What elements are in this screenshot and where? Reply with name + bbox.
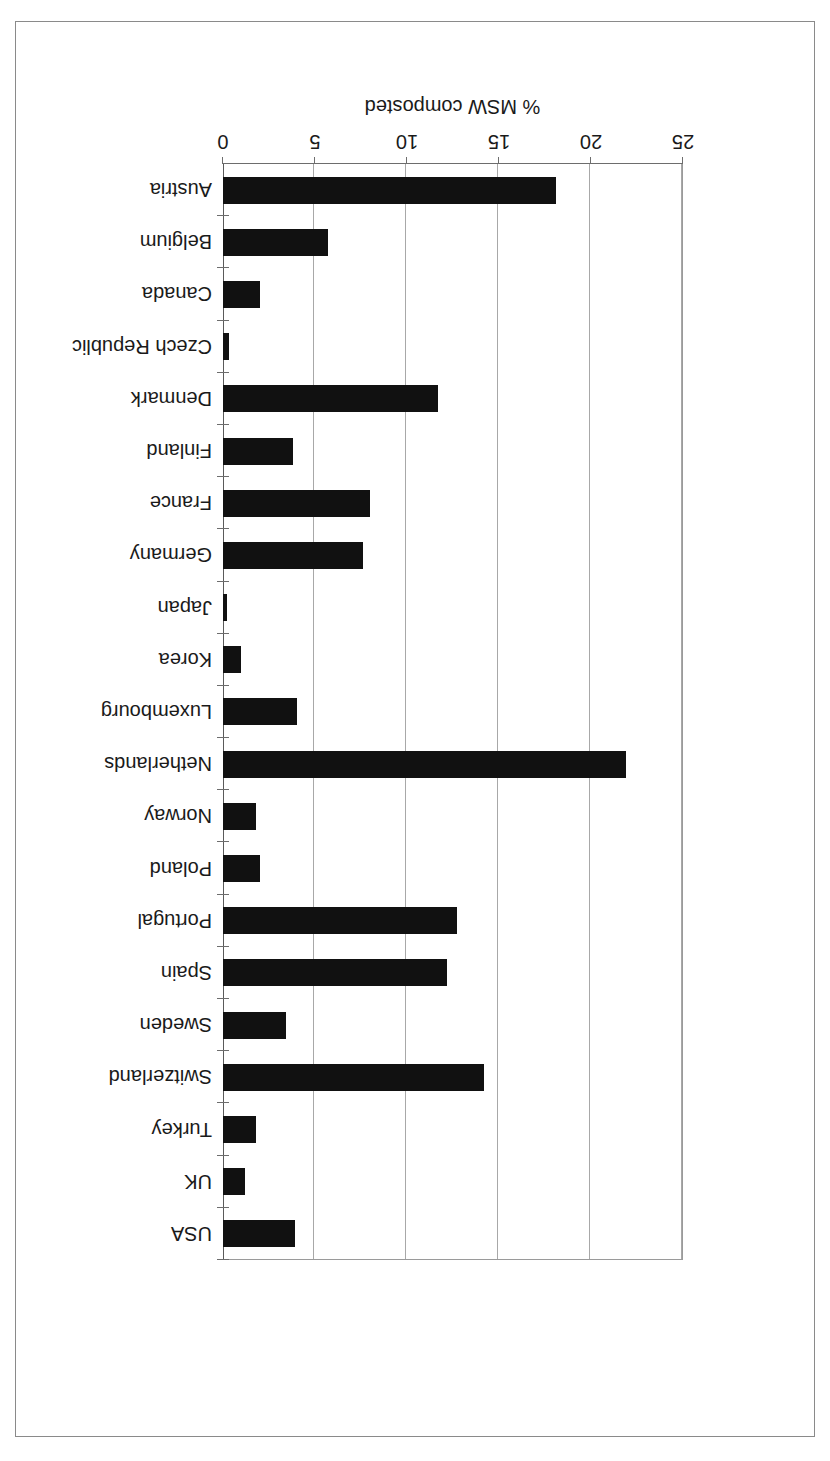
category-axis-tick xyxy=(217,841,229,842)
gridline xyxy=(497,164,498,1259)
category-axis-tick xyxy=(217,528,229,529)
value-axis-title: % MSW composted xyxy=(222,95,683,118)
gridline xyxy=(405,164,406,1259)
category-axis-label: Portugal xyxy=(138,910,213,932)
category-axis-label: Germany xyxy=(130,544,212,566)
gridline xyxy=(313,164,314,1259)
gridline xyxy=(589,164,590,1259)
category-axis-tick xyxy=(217,998,229,999)
value-axis-tick xyxy=(682,157,683,164)
bar xyxy=(223,699,297,726)
category-axis-label: Spain xyxy=(161,962,212,984)
bar xyxy=(223,281,260,308)
category-axis-tick xyxy=(217,267,229,268)
bar xyxy=(223,1220,295,1247)
category-axis-tick xyxy=(217,633,229,634)
bar-chart: 0510152025 % MSW composted AustriaBelgiu… xyxy=(16,22,815,1437)
bar xyxy=(223,1168,245,1195)
value-axis-tick-label: 20 xyxy=(561,130,621,154)
value-axis-tick xyxy=(590,157,591,164)
category-axis-label: Canada xyxy=(142,283,212,305)
category-axis-tick xyxy=(217,424,229,425)
bar xyxy=(223,646,241,673)
category-axis-tick xyxy=(217,789,229,790)
category-axis-tick xyxy=(217,894,229,895)
bar xyxy=(223,385,438,412)
value-axis-tick xyxy=(406,157,407,164)
bar xyxy=(223,490,370,517)
value-axis-tick xyxy=(222,157,223,164)
bar xyxy=(223,959,447,986)
category-axis-label: USA xyxy=(171,1223,212,1245)
bar xyxy=(223,1116,256,1143)
category-axis-tick xyxy=(217,946,229,947)
bar xyxy=(223,803,256,830)
bar xyxy=(223,333,229,360)
category-axis-label: Turkey xyxy=(152,1119,212,1141)
gridline xyxy=(681,164,682,1259)
bar xyxy=(223,855,260,882)
category-axis-label: Norway xyxy=(144,805,212,827)
category-axis-label: UK xyxy=(184,1171,212,1193)
category-axis-tick xyxy=(217,1259,229,1260)
category-axis-tick xyxy=(217,1102,229,1103)
bar xyxy=(223,594,227,621)
bar xyxy=(223,229,328,256)
value-axis-tick-label: 0 xyxy=(193,130,253,154)
category-axis-tick xyxy=(217,1155,229,1156)
figure-frame: 0510152025 % MSW composted AustriaBelgiu… xyxy=(15,21,815,1437)
category-axis-tick xyxy=(217,320,229,321)
category-axis-label: Czech Republic xyxy=(72,336,212,358)
category-axis-tick xyxy=(217,1207,229,1208)
category-axis-label: Luxembourg xyxy=(101,701,212,723)
category-axis-label: Belgium xyxy=(140,231,212,253)
value-axis-tick-label: 10 xyxy=(377,130,437,154)
rotated-figure-container: 0510152025 % MSW composted AustriaBelgiu… xyxy=(16,22,815,1437)
category-axis-tick xyxy=(217,1050,229,1051)
category-axis-tick xyxy=(217,372,229,373)
value-axis-tick-label: 5 xyxy=(285,130,345,154)
bar xyxy=(223,438,293,465)
category-axis-label: Korea xyxy=(159,649,212,671)
value-axis-line xyxy=(222,163,683,164)
category-axis-label: Netherlands xyxy=(104,753,212,775)
category-axis-label: Japan xyxy=(158,597,213,619)
value-axis-tick-label: 15 xyxy=(469,130,529,154)
category-axis-label: Switzerland xyxy=(109,1066,212,1088)
category-axis-label: Sweden xyxy=(140,1014,212,1036)
category-axis-tick xyxy=(217,476,229,477)
bar xyxy=(223,177,556,204)
value-axis-tick-label: 25 xyxy=(653,130,713,154)
bar xyxy=(223,907,457,934)
category-axis-tick xyxy=(217,685,229,686)
category-axis-label: Austria xyxy=(150,179,212,201)
category-axis-label: Finland xyxy=(146,440,212,462)
category-axis-tick xyxy=(217,215,229,216)
category-axis-label: Poland xyxy=(150,858,212,880)
category-axis-tick xyxy=(217,581,229,582)
bar xyxy=(223,751,626,778)
value-axis-tick xyxy=(314,157,315,164)
bar xyxy=(223,1064,484,1091)
category-axis-tick xyxy=(217,737,229,738)
category-axis-label: France xyxy=(150,492,212,514)
bar xyxy=(223,542,363,569)
value-axis-tick xyxy=(498,157,499,164)
category-axis-label: Denmark xyxy=(131,388,212,410)
bar xyxy=(223,1012,286,1039)
